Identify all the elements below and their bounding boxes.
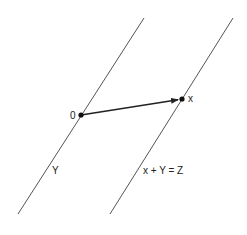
line-x-plus-y <box>110 18 233 214</box>
x-point-label: x <box>188 93 193 104</box>
diagram-canvas: 0 x Y x + Y = Z <box>0 0 247 235</box>
line-x-plus-y-label: x + Y = Z <box>143 165 183 176</box>
line-y-label: Y <box>52 165 59 176</box>
vector-arrow <box>81 100 178 115</box>
x-point <box>179 96 184 101</box>
origin-label: 0 <box>70 110 76 121</box>
diagram-svg: 0 x Y x + Y = Z <box>0 0 247 235</box>
origin-point <box>78 112 83 117</box>
